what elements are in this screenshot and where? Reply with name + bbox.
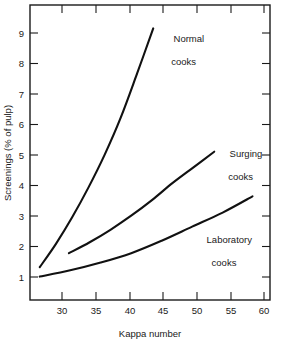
series-label-line2: cooks: [163, 56, 204, 68]
series-line-surging-cooks: [69, 152, 214, 253]
series-label-surging-cooks: Surging cooks: [219, 136, 262, 205]
x-tick-label: 40: [125, 305, 136, 316]
x-axis-ticks: [62, 292, 264, 300]
x-tick-label: 30: [57, 305, 68, 316]
x-tick-label: 35: [91, 305, 102, 316]
y-tick-label: 8: [19, 58, 24, 69]
chart-figure: 30 35 40 45 50 55 60 1 2 3 4 5 6 7 8 9 K…: [0, 0, 282, 343]
y-axis-ticks-right: [262, 33, 270, 277]
y-tick-label: 4: [19, 180, 24, 191]
y-axis-title: Screenings (% of pulp): [2, 105, 13, 201]
y-tick-label: 3: [19, 211, 24, 222]
series-label-line2: cooks: [196, 257, 252, 269]
y-tick-label: 1: [19, 272, 24, 283]
y-tick-label: 6: [19, 119, 24, 130]
y-tick-label: 2: [19, 241, 24, 252]
series-line-normal-cooks: [40, 28, 154, 267]
x-tick-label: 45: [158, 305, 169, 316]
series-label-line1: Surging: [230, 148, 263, 159]
y-tick-label: 7: [19, 89, 24, 100]
series-label-laboratory-cooks: Laboratory cooks: [196, 222, 252, 291]
series-label-line2: cooks: [219, 171, 262, 183]
y-tick-label: 5: [19, 150, 24, 161]
x-tick-label: 60: [259, 305, 270, 316]
series-label-line1: Normal: [174, 33, 205, 44]
x-tick-label: 55: [226, 305, 237, 316]
series-label-normal-cooks: Normal cooks: [163, 21, 204, 90]
y-tick-labels: 1 2 3 4 5 6 7 8 9: [19, 28, 24, 283]
series-label-line1: Laboratory: [207, 234, 252, 245]
x-tick-label: 50: [192, 305, 203, 316]
x-axis-title: Kappa number: [119, 328, 181, 339]
x-tick-labels: 30 35 40 45 50 55 60: [57, 305, 270, 316]
y-tick-label: 9: [19, 28, 24, 39]
y-axis-ticks: [30, 33, 38, 277]
x-axis-ticks-top: [62, 5, 264, 13]
